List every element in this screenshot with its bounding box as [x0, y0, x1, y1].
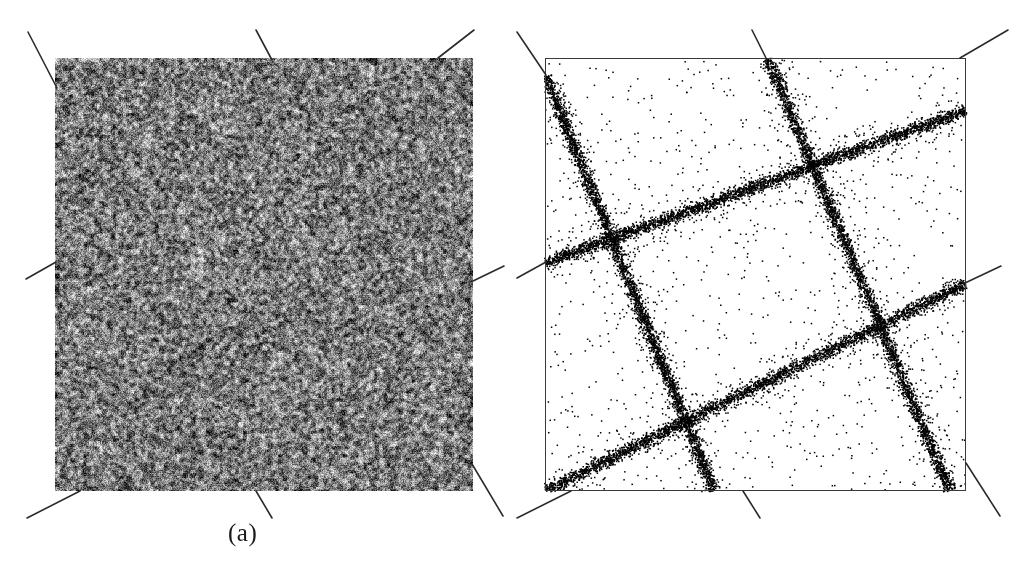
pointer-right — [473, 266, 504, 281]
pointer-left — [517, 262, 546, 278]
pointer-bottom-mid — [256, 491, 272, 518]
pointer-bottom-left — [517, 491, 571, 518]
figure-root: (a) (b) — [0, 0, 1020, 575]
pointer-lines-b — [510, 0, 1020, 575]
pointer-top-mid — [256, 30, 272, 60]
pointer-bottom-right — [472, 464, 503, 516]
panel-b-stage — [510, 0, 1020, 575]
pointer-right — [965, 266, 1001, 283]
panel-a-stage — [0, 0, 510, 575]
pointer-bottom-left — [27, 491, 80, 518]
pointer-bottom-mid — [743, 491, 760, 518]
pointer-bottom-right — [966, 463, 1000, 516]
panel-b: (b) — [510, 0, 1020, 575]
pointer-top-left — [517, 32, 546, 75]
pointer-left — [26, 262, 56, 279]
panel-a: (a) — [0, 0, 510, 575]
pointer-top-left — [28, 32, 57, 88]
pointer-top-right — [438, 30, 474, 58]
pointer-top-right — [960, 30, 1008, 58]
pointer-top-mid — [752, 30, 766, 58]
panel-a-caption: (a) — [228, 519, 257, 547]
pointer-lines-a — [0, 0, 510, 575]
